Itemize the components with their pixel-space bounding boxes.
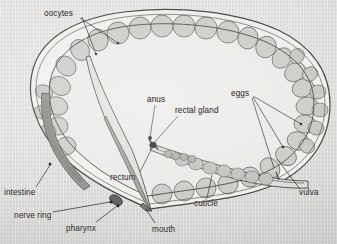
marker-nerve-ring xyxy=(109,200,112,203)
marker-pharynx xyxy=(117,205,120,208)
marker-egg-2 xyxy=(282,146,285,149)
nematode-illustration xyxy=(0,0,337,244)
label-rectum: rectum xyxy=(110,173,136,183)
label-mouth: mouth xyxy=(152,225,175,235)
label-nerve-ring: nerve ring xyxy=(14,211,51,221)
marker-oocyte-2 xyxy=(95,53,98,56)
nematode-anatomy-figure: oocytesanusrectal glandeggsrectumcuticle… xyxy=(0,0,337,244)
label-rectal-gland: rectal gland xyxy=(175,106,219,116)
label-vulva: vulva xyxy=(299,188,319,198)
leader-intestine xyxy=(36,165,50,187)
label-cuticle: cuticle xyxy=(194,199,218,209)
marker-rectal-gland xyxy=(151,143,155,147)
marker-oocyte-1 xyxy=(117,42,120,45)
label-oocytes: oocytes xyxy=(44,9,73,19)
marker-intestine xyxy=(49,163,52,166)
label-pharynx: pharynx xyxy=(66,224,96,234)
leader-nerve-ring xyxy=(53,202,110,212)
label-anus: anus xyxy=(147,95,165,105)
marker-anus xyxy=(148,136,151,139)
label-intestine: intestine xyxy=(4,188,35,198)
marker-egg-1 xyxy=(300,123,303,126)
leader-pharynx xyxy=(96,206,117,222)
label-eggs: eggs xyxy=(231,89,249,99)
